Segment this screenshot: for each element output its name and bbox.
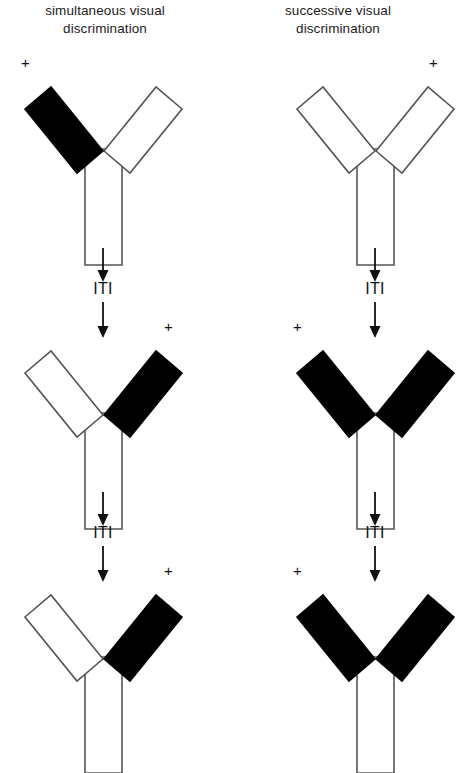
maze-arm-right bbox=[376, 595, 454, 681]
column-title-line2: discrimination bbox=[243, 20, 433, 38]
maze-arm-right bbox=[376, 87, 454, 173]
reward-marker-successive-trial-2: + bbox=[293, 319, 302, 334]
down-arrow-icon bbox=[370, 492, 381, 526]
reward-marker-successive-trial-3: + bbox=[293, 563, 302, 578]
reward-marker-simultaneous-trial-1: + bbox=[21, 55, 30, 70]
maze-arm-left bbox=[25, 351, 103, 437]
column-title-successive: successive visual discrimination bbox=[243, 2, 433, 37]
column-title-line2: discrimination bbox=[10, 20, 200, 38]
maze-stem bbox=[85, 657, 122, 773]
maze-simultaneous-trial-1 bbox=[6, 52, 206, 265]
maze-arm-left bbox=[297, 595, 375, 681]
maze-arm-right bbox=[104, 351, 182, 437]
down-arrow-icon bbox=[98, 248, 109, 282]
maze-arm-left bbox=[25, 87, 103, 173]
maze-successive-trial-1 bbox=[278, 52, 459, 265]
maze-stem bbox=[357, 657, 394, 773]
maze-arm-left bbox=[25, 595, 103, 681]
maze-arm-left bbox=[297, 87, 375, 173]
maze-arm-right bbox=[104, 87, 182, 173]
column-title-line1: successive visual bbox=[243, 2, 433, 20]
column-title-line1: simultaneous visual bbox=[10, 2, 200, 20]
iti-label: ITI bbox=[71, 281, 135, 297]
maze-successive-trial-3 bbox=[278, 560, 459, 773]
column-title-simultaneous: simultaneous visual discrimination bbox=[10, 2, 200, 37]
maze-simultaneous-trial-3 bbox=[6, 560, 206, 773]
maze-arm-right bbox=[104, 595, 182, 681]
iti-label: ITI bbox=[71, 525, 135, 541]
down-arrow-icon bbox=[98, 492, 109, 526]
reward-marker-simultaneous-trial-2: + bbox=[164, 319, 173, 334]
down-arrow-icon bbox=[370, 248, 381, 282]
maze-arm-right bbox=[376, 351, 454, 437]
iti-label: ITI bbox=[343, 525, 407, 541]
reward-marker-successive-trial-1: + bbox=[429, 55, 438, 70]
maze-arm-left bbox=[297, 351, 375, 437]
reward-marker-simultaneous-trial-3: + bbox=[164, 563, 173, 578]
iti-label: ITI bbox=[343, 281, 407, 297]
